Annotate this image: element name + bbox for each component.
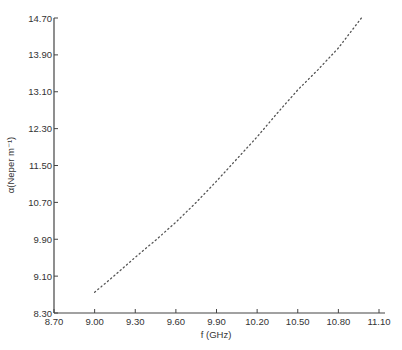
y-tick-label: 12.30 [28, 123, 52, 134]
data-series [95, 18, 362, 292]
x-tick-label: 10.80 [326, 316, 350, 327]
x-tick-label: 10.20 [245, 316, 269, 327]
y-tick-label: 13.10 [28, 86, 52, 97]
y-tick-label: 10.70 [28, 197, 52, 208]
y-tick-label: 9.90 [34, 234, 53, 245]
x-axis: 8.709.009.309.609.9010.2010.5010.8011.10 [45, 309, 391, 327]
y-tick-label: 11.50 [29, 160, 52, 171]
x-tick-label: 9.00 [85, 316, 104, 327]
x-tick-label: 9.60 [167, 316, 186, 327]
data-line [95, 18, 362, 292]
y-tick-label: 14.70 [28, 13, 52, 24]
x-tick-label: 9.90 [207, 316, 226, 327]
y-tick-label: 9.10 [34, 271, 53, 282]
x-axis-title: f (GHz) [201, 329, 232, 340]
x-tick-label: 8.70 [45, 316, 64, 327]
x-tick-label: 10.50 [286, 316, 310, 327]
x-tick-label: 9.30 [126, 316, 145, 327]
y-axis-title: α(Neper m⁻¹) [5, 137, 16, 193]
chart: 8.309.109.9010.7011.5012.3013.1013.9014.… [0, 0, 402, 350]
x-tick-label: 11.10 [367, 316, 390, 327]
y-tick-label: 13.90 [28, 49, 52, 60]
y-axis: 8.309.109.9010.7011.5012.3013.1013.9014.… [28, 13, 58, 319]
